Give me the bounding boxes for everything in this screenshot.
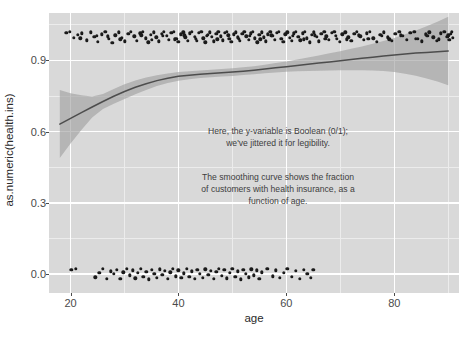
smoothing-curve <box>49 13 459 293</box>
chart-root: as.numeric(health.ins) 0.00.30.60.9 Here… <box>0 0 471 339</box>
y-axis-tick-labels: 0.00.30.60.9 <box>18 0 46 339</box>
x-axis-title: age <box>49 312 459 324</box>
x-axis-tick-mark <box>394 293 395 296</box>
y-axis-title: as.numeric(health.ins) <box>0 0 18 300</box>
x-axis-tick-label: 80 <box>388 297 400 309</box>
x-axis-tick-label: 60 <box>280 297 292 309</box>
x-axis-tick-label: 40 <box>172 297 184 309</box>
x-axis-tick-mark <box>286 293 287 296</box>
y-axis-title-text: as.numeric(health.ins) <box>3 93 15 206</box>
x-axis-tick-label: 20 <box>64 297 76 309</box>
y-axis-tick-label: 0.0 <box>20 268 46 280</box>
x-axis-tick-mark <box>178 293 179 296</box>
plot-panel: Here, the y-variable is Boolean (0/1); w… <box>49 13 459 293</box>
y-axis-tick-label: 0.9 <box>20 54 46 66</box>
x-axis-tick-labels: 20406080 <box>49 297 459 311</box>
x-axis-tick-marks <box>49 293 459 296</box>
x-axis-tick-mark <box>71 293 72 296</box>
y-axis-tick-label: 0.6 <box>20 126 46 138</box>
y-axis-tick-label: 0.3 <box>20 197 46 209</box>
